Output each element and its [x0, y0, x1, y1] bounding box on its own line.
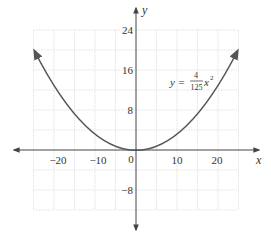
x-tick-10: 10 [172, 154, 184, 166]
y-axis-label: y [141, 3, 148, 17]
parabola-chart: y x −20 −10 0 10 20 24 16 8 −8 y = 4 125… [0, 0, 271, 242]
x-tick-20: 20 [212, 154, 224, 166]
origin-label: 0 [128, 153, 134, 165]
svg-text:125: 125 [191, 83, 203, 92]
svg-text:y =: y = [169, 76, 185, 88]
svg-text:2: 2 [210, 74, 214, 82]
x-tick--20: −20 [49, 154, 67, 166]
y-tick--8: −8 [121, 184, 133, 196]
y-tick-8: 8 [128, 104, 134, 116]
x-tick--10: −10 [89, 154, 107, 166]
y-tick-24: 24 [122, 24, 134, 36]
x-axis-label: x [255, 153, 262, 167]
svg-text:4: 4 [194, 71, 198, 80]
y-tick-16: 16 [122, 64, 134, 76]
svg-text:x: x [203, 76, 209, 88]
equation-label: y = 4 125 x 2 [169, 71, 214, 92]
